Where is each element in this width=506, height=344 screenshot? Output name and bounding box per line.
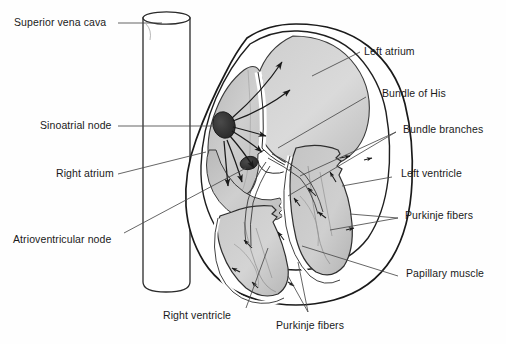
figure-canvas: Superior vena cava Sinoatrial node Right…	[0, 0, 506, 344]
label-right-atrium: Right atrium	[56, 168, 114, 179]
label-bundle-branches: Bundle branches	[403, 124, 483, 135]
label-sinoatrial-node: Sinoatrial node	[40, 120, 112, 131]
label-superior-vena-cava: Superior vena cava	[14, 17, 106, 28]
label-left-atrium: Left atrium	[364, 46, 415, 57]
label-purkinje-fibers-bottom: Purkinje fibers	[276, 320, 344, 331]
label-left-ventricle: Left ventricle	[401, 168, 462, 179]
label-purkinje-fibers-right: Purkinje fibers	[405, 210, 473, 221]
label-papillary-muscle: Papillary muscle	[406, 268, 484, 279]
label-bundle-of-his: Bundle of His	[382, 88, 446, 99]
superior-vena-cava-vessel	[143, 12, 190, 292]
label-atrioventricular-node: Atrioventricular node	[13, 234, 111, 245]
label-right-ventricle: Right ventricle	[163, 310, 231, 321]
